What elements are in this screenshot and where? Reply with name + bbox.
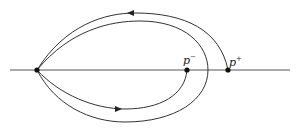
phase-diagram: p− p+ (0, 0, 300, 130)
lower-orbit (37, 70, 187, 109)
origin-node (34, 67, 39, 72)
inner-loop-orbit (37, 21, 208, 122)
arrow-left-icon (127, 10, 134, 16)
p-minus-node (184, 67, 189, 72)
arrow-right-icon (115, 106, 122, 112)
p-minus-label: p− (183, 53, 196, 67)
p-plus-label: p+ (229, 55, 242, 69)
